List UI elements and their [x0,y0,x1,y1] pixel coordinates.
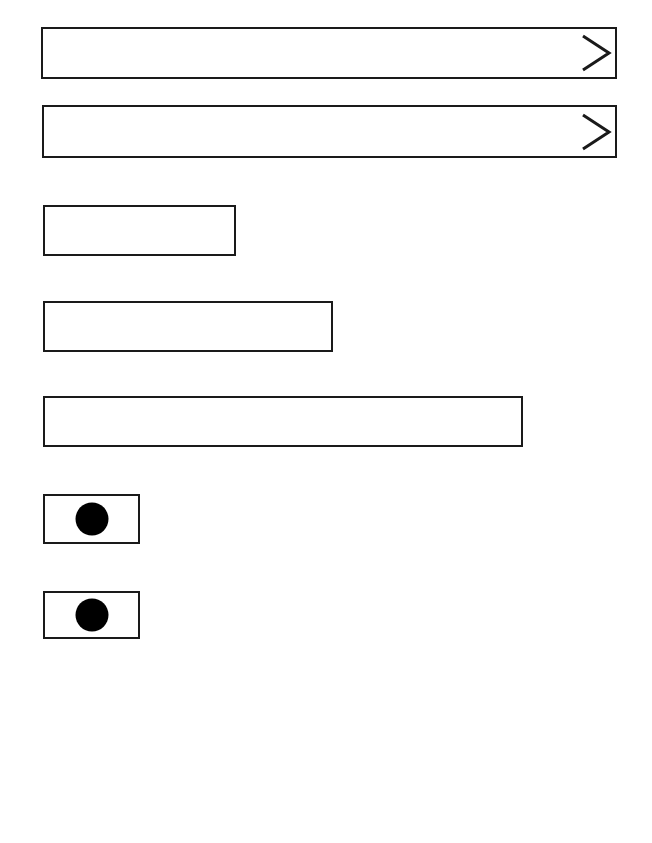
chevron-right-icon [579,112,613,152]
radio-dot-icon [75,599,108,632]
text-field-3[interactable] [43,396,523,447]
select-2[interactable] [42,105,617,158]
chevron-right-icon [579,33,613,73]
radio-button-2[interactable] [43,591,140,639]
radio-dot-icon [75,503,108,536]
text-field-1[interactable] [43,205,236,256]
select-1[interactable] [41,27,617,79]
radio-button-1[interactable] [43,494,140,544]
text-field-2[interactable] [43,301,333,352]
